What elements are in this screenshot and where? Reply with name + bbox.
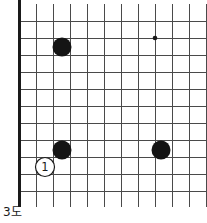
white-stone-move-1[interactable]: 1 [36,158,55,177]
stones-layer[interactable]: 1 [36,38,171,177]
go-diagram-figure: 1 3도 [0,0,207,223]
go-board[interactable]: 1 [0,0,207,207]
black-stone-icon [53,141,72,160]
black-stone-upper-left[interactable] [53,38,72,57]
black-stone-icon [53,38,72,57]
black-stone-icon [152,141,171,160]
black-stone-lower-left[interactable] [53,141,72,160]
black-stone-lower-right[interactable] [152,141,171,160]
stone-move-number: 1 [41,160,48,174]
star-points [153,36,158,41]
figure-caption: 3도 [3,205,22,219]
star-point-right-icon [153,36,158,41]
